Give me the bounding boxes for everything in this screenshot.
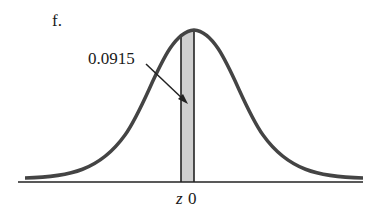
zero-label: 0 <box>188 189 197 209</box>
normal-curve-diagram <box>0 0 382 219</box>
shaded-area <box>181 30 194 182</box>
part-label: f. <box>52 11 62 31</box>
area-label: 0.0915 <box>88 49 135 69</box>
z-label: z <box>176 189 183 209</box>
